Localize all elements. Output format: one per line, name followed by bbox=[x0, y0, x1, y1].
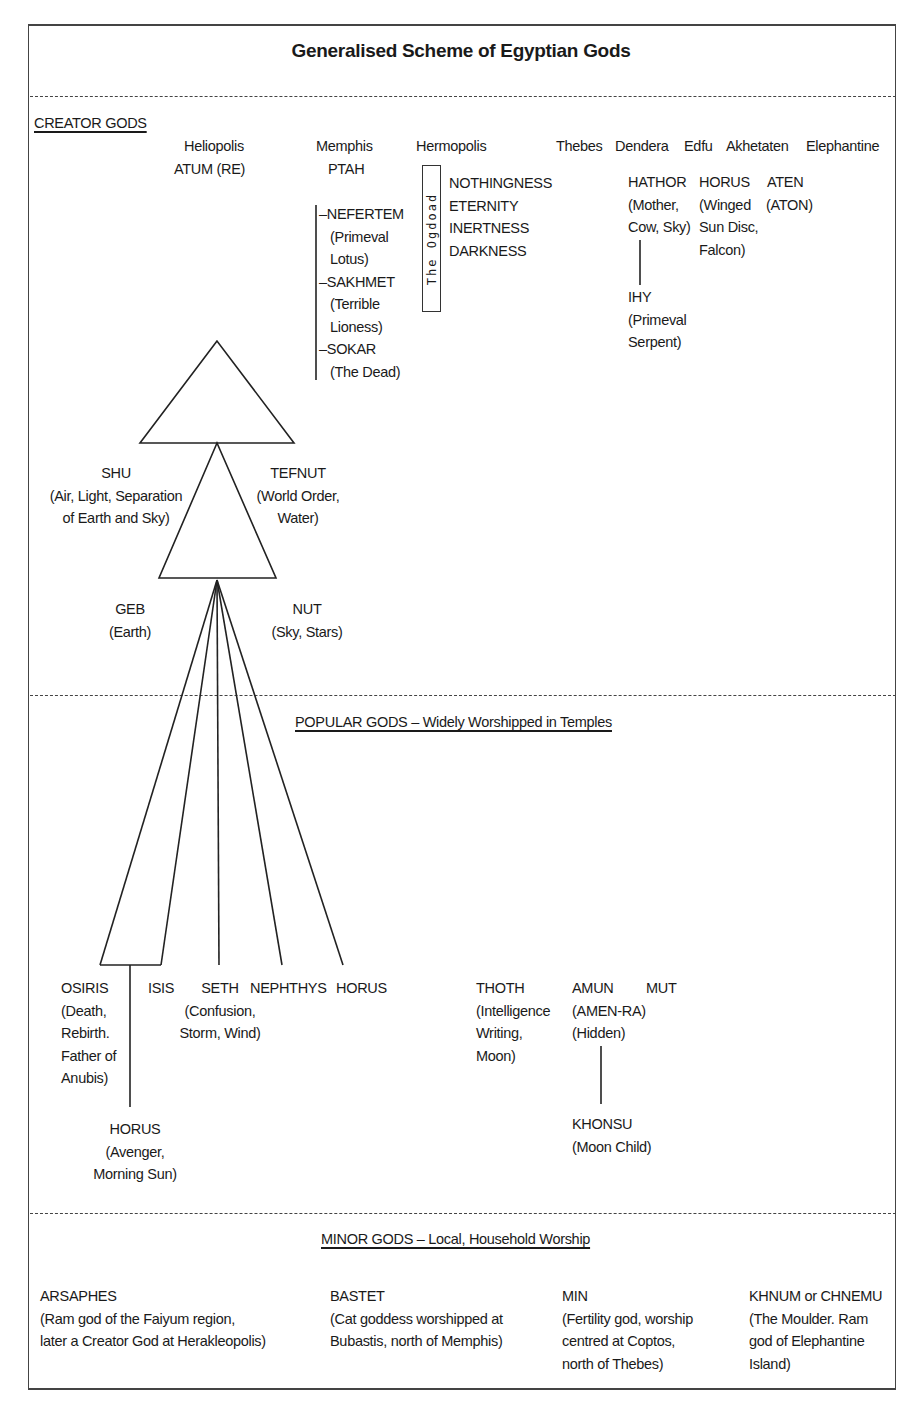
god-tefnut-desc: (World Order, Water) bbox=[246, 485, 350, 530]
city-elephantine: Elephantine bbox=[806, 135, 879, 158]
god-min-block: MIN (Fertility god, worship centred at C… bbox=[562, 1285, 693, 1375]
god-horus-edfu: HORUS bbox=[699, 171, 758, 194]
god-bastet-block: BASTET (Cat goddess worshipped at Bubast… bbox=[330, 1285, 503, 1353]
god-horus-edfu-desc: (Winged Sun Disc, Falcon) bbox=[699, 194, 758, 262]
god-hathor: HATHOR bbox=[628, 171, 691, 194]
god-shu-block: SHU (Air, Light, Separation of Earth and… bbox=[36, 462, 196, 530]
city-thebes: Thebes bbox=[556, 135, 603, 158]
god-khnum-desc: (The Moulder. Ram god of Elephantine Isl… bbox=[749, 1308, 882, 1376]
god-sokar: –SOKAR bbox=[319, 338, 404, 361]
god-inertness: INERTNESS bbox=[449, 217, 552, 240]
god-min: MIN bbox=[562, 1285, 693, 1308]
city-edfu: Edfu bbox=[684, 135, 713, 158]
god-geb: GEB bbox=[95, 598, 165, 621]
god-nothingness: NOTHINGNESS bbox=[449, 172, 552, 195]
god-arsaphes: ARSAPHES bbox=[40, 1285, 266, 1308]
god-shu: SHU bbox=[36, 462, 196, 485]
god-atum: ATUM (RE) bbox=[174, 158, 245, 181]
god-eternity: ETERNITY bbox=[449, 195, 552, 218]
god-nut-block: NUT (Sky, Stars) bbox=[262, 598, 352, 643]
god-sakhmet-desc: (Terrible Lioness) bbox=[319, 293, 404, 338]
city-heliopolis: Heliopolis bbox=[184, 135, 244, 158]
god-bastet-desc: (Cat goddess worshipped at Bubastis, nor… bbox=[330, 1308, 503, 1353]
god-ihy-block: IHY (Primeval Serpent) bbox=[628, 286, 687, 354]
city-dendera: Dendera bbox=[615, 135, 669, 158]
god-nut-desc: (Sky, Stars) bbox=[262, 621, 352, 644]
diagram-title: Generalised Scheme of Egyptian Gods bbox=[0, 40, 922, 62]
god-thoth-block: THOTH (Intelligence Writing, Moon) bbox=[476, 977, 550, 1067]
god-darkness: DARKNESS bbox=[449, 240, 552, 263]
god-tefnut: TEFNUT bbox=[246, 462, 350, 485]
god-thoth: THOTH bbox=[476, 977, 550, 1000]
god-arsaphes-desc: (Ram god of the Faiyum region, later a C… bbox=[40, 1308, 266, 1353]
god-horus-avenger-desc: (Avenger, Morning Sun) bbox=[80, 1141, 190, 1186]
god-geb-desc: (Earth) bbox=[95, 621, 165, 644]
creator-gods-heading: CREATOR GODS bbox=[34, 115, 147, 131]
god-khonsu: KHONSU bbox=[572, 1113, 651, 1136]
city-akhetaten: Akhetaten bbox=[726, 135, 789, 158]
god-nefertem: –NEFERTEM bbox=[319, 203, 404, 226]
god-amun-block: AMUN (AMEN-RA) (Hidden) bbox=[572, 977, 646, 1045]
god-horus-edfu-block: HORUS (Winged Sun Disc, Falcon) bbox=[699, 171, 758, 261]
god-aten: ATEN bbox=[766, 171, 813, 194]
god-horus-popular: HORUS bbox=[336, 977, 387, 1000]
god-hathor-block: HATHOR (Mother, Cow, Sky) bbox=[628, 171, 691, 239]
god-ihy: IHY bbox=[628, 286, 687, 309]
atum-triangle bbox=[140, 341, 294, 443]
popular-gods-heading: POPULAR GODS – Widely Worshipped in Temp… bbox=[295, 714, 612, 730]
god-nephthys: NEPHTHYS bbox=[250, 977, 327, 1000]
god-khonsu-desc: (Moon Child) bbox=[572, 1136, 651, 1159]
god-sakhmet: –SAKHMET bbox=[319, 271, 404, 294]
god-mut: MUT bbox=[646, 977, 677, 1000]
god-osiris-block: OSIRIS (Death, Rebirth. Father of Anubis… bbox=[61, 977, 116, 1090]
god-seth-desc: (Confusion, Storm, Wind) bbox=[172, 1000, 268, 1045]
god-shu-desc: (Air, Light, Separation of Earth and Sky… bbox=[36, 485, 196, 530]
god-hathor-desc: (Mother, Cow, Sky) bbox=[628, 194, 691, 239]
god-thoth-desc: (Intelligence Writing, Moon) bbox=[476, 1000, 550, 1068]
god-aten-block: ATEN (ATON) bbox=[766, 171, 813, 216]
god-amun-desc: (AMEN-RA) (Hidden) bbox=[572, 1000, 646, 1045]
minor-gods-heading: MINOR GODS – Local, Household Worship bbox=[321, 1231, 590, 1247]
god-tefnut-block: TEFNUT (World Order, Water) bbox=[246, 462, 350, 530]
god-ihy-desc: (Primeval Serpent) bbox=[628, 309, 687, 354]
god-khnum-block: KHNUM or CHNEMU (The Moulder. Ram god of… bbox=[749, 1285, 882, 1375]
god-amun: AMUN bbox=[572, 977, 646, 1000]
god-horus-avenger-block: HORUS (Avenger, Morning Sun) bbox=[80, 1118, 190, 1186]
god-nefertem-desc: (Primeval Lotus) bbox=[319, 226, 404, 271]
god-osiris-desc: (Death, Rebirth. Father of Anubis) bbox=[61, 1000, 116, 1090]
god-horus-avenger: HORUS bbox=[80, 1118, 190, 1141]
god-aten-desc: (ATON) bbox=[766, 194, 813, 217]
god-isis: ISIS bbox=[148, 977, 174, 1000]
memphis-children: –NEFERTEM (Primeval Lotus) –SAKHMET (Ter… bbox=[319, 203, 404, 383]
god-khonsu-block: KHONSU (Moon Child) bbox=[572, 1113, 651, 1158]
god-nut: NUT bbox=[262, 598, 352, 621]
god-arsaphes-block: ARSAPHES (Ram god of the Faiyum region, … bbox=[40, 1285, 266, 1353]
ogdoad-label: The Ogdoad bbox=[425, 192, 439, 284]
god-bastet: BASTET bbox=[330, 1285, 503, 1308]
ogdoad-box: The Ogdoad bbox=[422, 165, 441, 312]
god-sokar-desc: (The Dead) bbox=[319, 361, 404, 384]
city-memphis: Memphis bbox=[316, 135, 373, 158]
ogdoad-members: NOTHINGNESS ETERNITY INERTNESS DARKNESS bbox=[449, 172, 552, 262]
god-geb-block: GEB (Earth) bbox=[95, 598, 165, 643]
god-osiris: OSIRIS bbox=[61, 977, 116, 1000]
god-min-desc: (Fertility god, worship centred at Copto… bbox=[562, 1308, 693, 1376]
god-khnum: KHNUM or CHNEMU bbox=[749, 1285, 882, 1308]
city-hermopolis: Hermopolis bbox=[416, 135, 486, 158]
god-ptah: PTAH bbox=[328, 158, 364, 181]
